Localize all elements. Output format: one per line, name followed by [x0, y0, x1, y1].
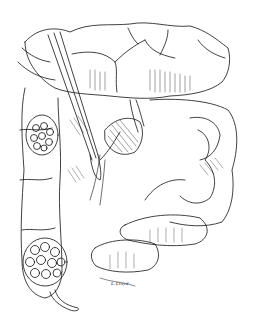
- tumor-upper: [26, 115, 58, 155]
- forceps: [48, 32, 101, 180]
- mesenteric-vessels: [72, 28, 175, 92]
- dissected-mass: [90, 100, 144, 205]
- hatching-bowel: [68, 116, 223, 269]
- hatching-colon: [90, 70, 190, 92]
- ascending-colon: [21, 88, 62, 298]
- transverse-colon: [25, 23, 230, 98]
- colon-folds: [18, 40, 225, 80]
- small-bowel-loops: [91, 99, 236, 272]
- hatching-mass: [108, 120, 138, 152]
- colon-folds-left: [20, 128, 55, 230]
- anatomy-drawing: [0, 0, 259, 320]
- tumor-lower: [23, 238, 67, 286]
- artist-signature: L.Lloyd: [111, 281, 129, 286]
